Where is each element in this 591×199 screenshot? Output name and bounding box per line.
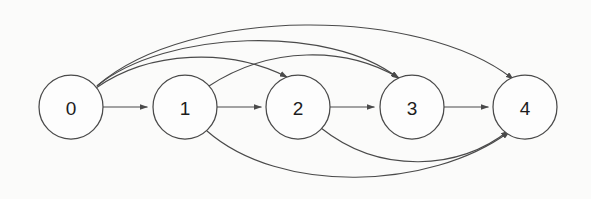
node-label-1: 1: [180, 98, 191, 119]
node-label-0: 0: [66, 98, 77, 119]
node-label-3: 3: [407, 98, 418, 119]
node-3[interactable]: 3: [380, 75, 444, 139]
edge-0-to-3: [97, 41, 398, 86]
node-4[interactable]: 4: [493, 75, 557, 139]
directed-graph-diagram: 01234: [0, 0, 591, 199]
node-label-2: 2: [293, 98, 304, 119]
node-0[interactable]: 0: [39, 75, 103, 139]
node-label-4: 4: [520, 98, 531, 119]
node-1[interactable]: 1: [153, 75, 217, 139]
node-2[interactable]: 2: [266, 75, 330, 139]
